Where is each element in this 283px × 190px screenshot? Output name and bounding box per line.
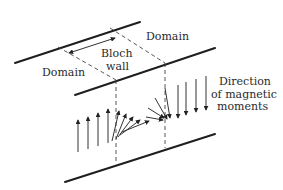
moment-arrow-tilted [146, 117, 163, 120]
label-bloch-wall-2: wall [106, 60, 129, 73]
moments-up [78, 109, 108, 152]
moments-down [178, 76, 206, 118]
top-edge-front [75, 48, 215, 95]
label-direction-1: Direction [219, 75, 271, 88]
moments-transition [112, 88, 170, 141]
label-domain-right: Domain [146, 30, 189, 43]
label-direction-3: moments [217, 100, 268, 113]
moment-arrow-tilted [165, 88, 170, 118]
bloch-wall-diagram: Domain Bloch wall Domain Direction of ma… [0, 0, 283, 190]
label-domain-left: Domain [42, 66, 85, 79]
label-bloch-wall-1: Bloch [101, 47, 132, 60]
